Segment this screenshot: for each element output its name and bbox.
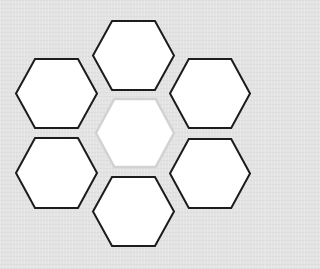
hexagon-upper-left (16, 59, 97, 128)
hexagon-diagram (0, 0, 265, 269)
hexagon-upper-right (170, 59, 250, 128)
hexagon-lower-right (170, 139, 250, 208)
hexagon-bottom (93, 177, 174, 246)
hexagon-center (96, 99, 174, 167)
hexagon-lower-left (16, 138, 97, 208)
hexagon-top (93, 21, 174, 90)
